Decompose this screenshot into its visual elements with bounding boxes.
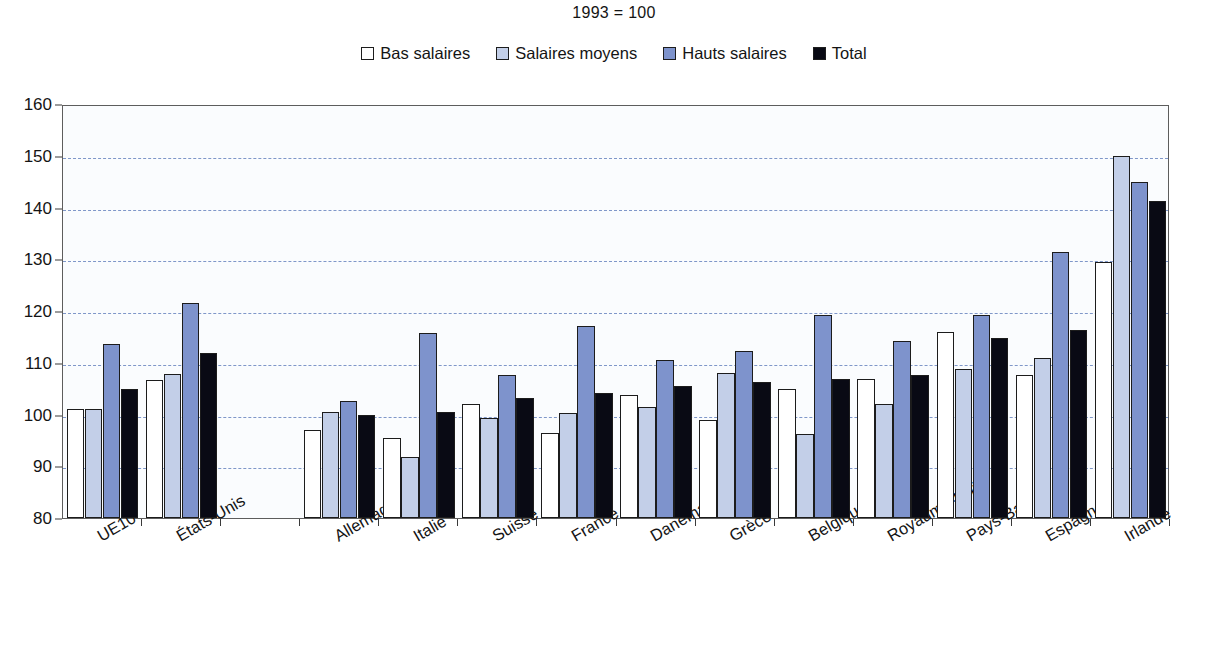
bar	[1052, 252, 1070, 519]
bar-group-france	[537, 106, 616, 518]
y-tick-mark	[55, 467, 62, 468]
y-tick-mark	[55, 363, 62, 364]
bar	[358, 415, 376, 519]
chart-legend: Bas salairesSalaires moyensHauts salaire…	[0, 44, 1228, 63]
legend-swatch-hauts-salaires-icon	[663, 47, 676, 60]
bar	[200, 353, 218, 518]
legend-label: Salaires moyens	[515, 44, 637, 63]
bar	[516, 398, 534, 518]
bar-group-italie	[379, 106, 458, 518]
bar	[638, 407, 656, 518]
x-axis-labels: UE10États-UnisAllemagneItalieSuisseFranc…	[0, 519, 1228, 639]
bar	[164, 374, 182, 518]
bars-layer	[63, 106, 1168, 518]
y-tick-mark	[55, 260, 62, 261]
bar	[419, 333, 437, 518]
y-tick-mark	[55, 156, 62, 157]
bar	[1034, 358, 1052, 518]
bar	[595, 393, 613, 518]
y-tick-label: 120	[24, 302, 52, 322]
bar	[796, 434, 814, 518]
bar	[1149, 201, 1167, 518]
bar	[753, 382, 771, 518]
bar-group-allemagne	[300, 106, 379, 518]
bar	[778, 389, 796, 518]
y-tick-mark	[55, 312, 62, 313]
legend-label: Total	[832, 44, 867, 63]
y-tick-mark	[55, 415, 62, 416]
bar	[991, 338, 1009, 518]
bar	[814, 315, 832, 518]
legend-item-total[interactable]: Total	[813, 44, 867, 63]
bar	[937, 332, 955, 518]
bar	[182, 303, 200, 518]
bar-group-espagne	[1012, 106, 1091, 518]
y-tick-label: 140	[24, 199, 52, 219]
legend-item-salaires-moyens[interactable]: Salaires moyens	[496, 44, 637, 63]
y-tick-label: 100	[24, 406, 52, 426]
y-tick-label: 110	[25, 354, 52, 374]
legend-item-hauts-salaires[interactable]: Hauts salaires	[663, 44, 787, 63]
bar-group-ue10	[63, 106, 142, 518]
bar	[1095, 262, 1113, 518]
legend-swatch-total-icon	[813, 47, 826, 60]
bar	[857, 379, 875, 518]
bar	[480, 418, 498, 518]
y-tick-mark	[55, 105, 62, 106]
bar	[620, 395, 638, 518]
bar	[85, 409, 103, 518]
bar	[1016, 375, 1034, 518]
bar	[832, 379, 850, 518]
bar	[1070, 330, 1088, 518]
y-tick-label: 90	[33, 457, 52, 477]
bar	[735, 351, 753, 518]
y-tick-mark	[55, 208, 62, 209]
bar	[401, 457, 419, 518]
bar-group-états-unis	[142, 106, 221, 518]
bar-group-suisse	[458, 106, 537, 518]
bar	[541, 433, 559, 518]
bar	[462, 404, 480, 518]
bar	[674, 386, 692, 518]
bar-group-royaume-uni	[854, 106, 933, 518]
bar	[437, 412, 455, 518]
chart-title: 1993 = 100	[0, 4, 1228, 22]
legend-swatch-salaires-moyens-icon	[496, 47, 509, 60]
bar	[146, 380, 164, 518]
plot-area	[62, 105, 1169, 519]
bar	[340, 401, 358, 518]
bar	[699, 420, 717, 518]
y-tick-label: 160	[24, 95, 52, 115]
bar-group-empty	[221, 106, 300, 518]
bar	[103, 344, 121, 518]
bar	[973, 315, 991, 518]
legend-swatch-bas-salaires-icon	[361, 47, 374, 60]
bar-group-irlande	[1091, 106, 1170, 518]
bar	[656, 360, 674, 518]
bar	[717, 373, 735, 518]
legend-item-bas-salaires[interactable]: Bas salaires	[361, 44, 470, 63]
bar	[893, 341, 911, 519]
y-tick-label: 150	[24, 147, 52, 167]
bar	[67, 409, 85, 518]
bar	[383, 438, 401, 518]
bar	[498, 375, 516, 518]
bar-group-pays-bas	[933, 106, 1012, 518]
bar	[577, 326, 595, 519]
bar	[911, 375, 929, 518]
bar	[121, 389, 139, 518]
bar-group-grèce	[696, 106, 775, 518]
bar	[559, 413, 577, 518]
bar	[304, 430, 322, 518]
y-tick-label: 130	[24, 250, 52, 270]
y-axis: 8090100110120130140150160	[0, 105, 62, 519]
bar	[1131, 182, 1149, 518]
legend-label: Hauts salaires	[682, 44, 787, 63]
bar-group-belgique	[775, 106, 854, 518]
bar-group-danemark	[617, 106, 696, 518]
bar	[322, 412, 340, 518]
bar	[875, 404, 893, 518]
legend-label: Bas salaires	[380, 44, 470, 63]
bar	[955, 369, 973, 518]
bar	[1113, 156, 1131, 518]
